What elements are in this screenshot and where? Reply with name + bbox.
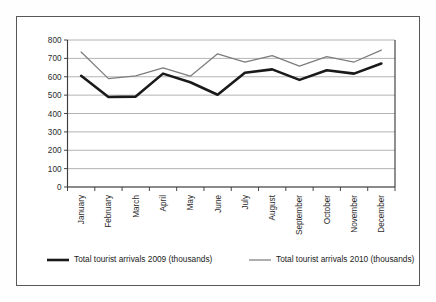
- xtick-label-november: November: [350, 195, 359, 233]
- x-axis-ticks: JanuaryFebruaryMarchAprilMayJuneJulyAugu…: [68, 187, 396, 235]
- chart-frame: 0100200300400500600700800JanuaryFebruary…: [16, 16, 420, 286]
- series-line-2009: [81, 64, 381, 97]
- ytick-label-600: 600: [48, 73, 62, 82]
- figure-canvas: 0100200300400500600700800JanuaryFebruary…: [0, 0, 436, 302]
- ytick-label-700: 700: [48, 54, 62, 63]
- legend-label-2009: Total tourist arrivals 2009 (thousands): [74, 254, 213, 264]
- xtick-label-december: December: [377, 195, 386, 233]
- ytick-label-500: 500: [48, 91, 62, 100]
- xtick-label-march: March: [132, 195, 141, 218]
- xtick-label-may: May: [186, 194, 195, 210]
- ytick-label-800: 800: [48, 36, 62, 45]
- ytick-label-400: 400: [48, 110, 62, 119]
- data-series-group: [81, 50, 381, 97]
- series-line-2010: [81, 50, 381, 78]
- legend: Total tourist arrivals 2009 (thousands)T…: [47, 254, 415, 264]
- ytick-label-0: 0: [57, 183, 62, 192]
- ytick-label-300: 300: [48, 128, 62, 137]
- xtick-label-september: September: [295, 195, 304, 235]
- xtick-label-july: July: [241, 194, 250, 209]
- ytick-label-200: 200: [48, 146, 62, 155]
- xtick-label-august: August: [268, 194, 277, 220]
- line-chart-plot: 0100200300400500600700800JanuaryFebruary…: [17, 17, 419, 285]
- xtick-label-january: January: [77, 194, 86, 224]
- xtick-label-february: February: [104, 194, 113, 228]
- xtick-label-october: October: [323, 195, 332, 224]
- xtick-label-june: June: [214, 195, 223, 213]
- xtick-label-april: April: [159, 195, 168, 212]
- legend-label-2010: Total tourist arrivals 2010 (thousands): [276, 254, 415, 264]
- ytick-label-100: 100: [48, 165, 62, 174]
